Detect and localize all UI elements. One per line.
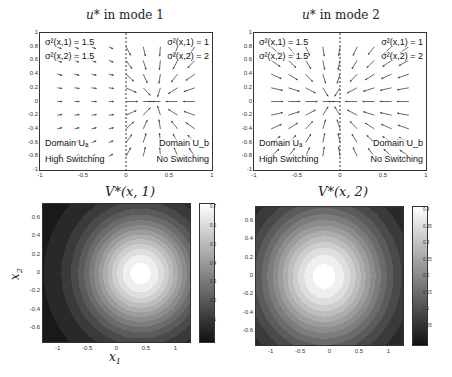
annotation: Domain U_b [373,138,423,148]
title-rest: *(x, 2) [327,184,368,199]
tick-label: 0.2 [245,254,253,260]
tick-label: -1 [33,166,38,172]
colorbar-tick: 0.2 [423,273,429,278]
colorbar-tick: 0.5 [210,242,216,247]
colorbar-tick: 0 [210,336,213,341]
ysub: 2 [15,268,24,273]
tick-label: 0.4 [30,70,38,76]
tick-label: 0.4 [245,235,253,241]
tick-label: 0.8 [244,43,252,49]
heatmap-v2 [255,206,404,346]
tick-label: 0 [124,172,127,178]
tick-label: 1 [174,345,177,351]
tick-label: 0 [37,269,40,275]
chart-title-v2: V*(x, 2) [283,184,403,199]
colorbar-tick: 0.1 [423,306,429,311]
annotation: Domain Uₐ [259,138,302,148]
annotation: σ²(x,1) = 1 [381,37,423,47]
annotation: No Switching [370,154,423,164]
tick-label: -0.4 [242,125,252,131]
tick-label: 0.2 [32,251,40,257]
tick-label: 0.6 [245,217,253,223]
colorbar-tick: 0.3 [423,240,429,245]
annotation: σ²(x,2) = 2 [381,51,423,61]
annotation: σ²(x,2) = 1.5 [45,51,94,61]
tick-label: -0.8 [28,152,38,158]
tick-label: -0.6 [243,327,253,333]
annotation: σ²(x,2) = 2 [167,51,209,61]
tick-label: 0 [250,272,253,278]
heatmap-canvas [43,204,190,342]
title-rest: * in mode 1 [94,8,164,22]
tick-label: -1 [268,348,273,354]
colorbar-tick: 0.6 [210,223,216,228]
tick-label: -0.4 [28,125,38,131]
tick-label: 1 [35,29,38,35]
tick-label: 0.5 [379,172,387,178]
title-rest: *(x, 1) [114,184,155,199]
tick-label: -0.2 [242,111,252,117]
tick-label: 0.2 [30,84,38,90]
colorbar-tick: 0.1 [210,317,216,322]
annotation: σ²(x,2) = 1.5 [259,51,308,61]
xsub: 1 [116,357,121,366]
annotation: σ²(x,1) = 1.5 [45,37,94,47]
tick-label: -0.4 [30,306,40,312]
tick-label: 0.4 [244,70,252,76]
tick-label: -0.6 [28,139,38,145]
x-axis-label: x1 [109,350,121,366]
title-u: u [302,8,310,22]
y-axis-label: x2 [8,268,24,280]
colorbar-tick: 0.15 [423,290,432,295]
heatmap-canvas [256,207,403,345]
colorbar-tick: 0 [423,339,426,344]
tick-label: -0.2 [30,287,40,293]
chart-title-v1: V*(x, 1) [70,184,190,199]
colorbar-tick: 0.7 [210,204,216,209]
tick-label: -0.6 [242,139,252,145]
colorbar-tick: 0.05 [423,323,432,328]
colorbar-tick: 0.4 [423,207,429,212]
tick-label: -0.5 [295,348,305,354]
colorbar-tick: 0.4 [210,261,216,266]
tick-label: 1 [249,29,252,35]
tick-label: -0.6 [30,324,40,330]
tick-label: -0.8 [242,152,252,158]
tick-label: 0.6 [32,214,40,220]
tick-label: 0.5 [142,345,150,351]
chart-title-mode1: u* in mode 1 [40,8,210,22]
colorbar-tick: 0.25 [423,257,432,262]
tick-label: 0 [338,172,341,178]
title-rest: * in mode 2 [310,8,380,22]
colorbar-tick: 0.35 [423,224,432,229]
annotation: High Switching [259,154,319,164]
tick-label: 0.6 [30,56,38,62]
tick-label: 0 [35,98,38,104]
ylab: x [8,273,22,280]
tick-label: 1 [424,172,427,178]
tick-label: 0.5 [165,172,173,178]
annotation: σ²(x,1) = 1.5 [259,37,308,47]
tick-label: -0.2 [28,111,38,117]
title-u: u [86,8,94,22]
tick-label: -0.5 [82,345,92,351]
tick-label: 0.5 [355,348,363,354]
annotation: σ²(x,1) = 1 [167,37,209,47]
annotation: Domain Uₐ [45,138,88,148]
tick-label: -1 [55,345,60,351]
tick-label: -0.2 [243,290,253,296]
chart-title-mode2: u* in mode 2 [256,8,426,22]
tick-label: 0 [249,98,252,104]
tick-label: 0 [115,345,118,351]
tick-label: -1 [247,166,252,172]
annotation: No Switching [156,154,209,164]
colorbar-tick: 0.3 [210,279,216,284]
annotation: High Switching [45,154,105,164]
annotation: Domain U_b [159,138,209,148]
tick-label: 0.2 [244,84,252,90]
tick-label: 0.6 [244,56,252,62]
tick-label: -0.5 [78,172,88,178]
xlab: x [109,350,116,364]
tick-label: 0.4 [32,232,40,238]
tick-label: -0.4 [243,309,253,315]
